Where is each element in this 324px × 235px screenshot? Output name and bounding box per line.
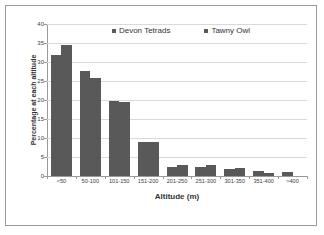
x-axis-tick-label: 351-400 (249, 179, 278, 185)
bar (264, 173, 275, 176)
bar (167, 167, 178, 177)
bar (177, 165, 188, 176)
y-axis-tick-mark (44, 62, 47, 63)
gridline (47, 176, 307, 177)
bar (90, 78, 101, 176)
bar-group (51, 24, 72, 176)
bar (282, 172, 293, 176)
bar (138, 142, 149, 176)
y-axis-title-container: Percentage at each altitude (14, 24, 26, 176)
x-axis-tick-label: 201-250 (163, 179, 192, 185)
x-axis-tick-label: 151-200 (134, 179, 163, 185)
x-axis-tick-mark (249, 176, 250, 179)
y-axis-tick-mark (44, 100, 47, 101)
x-axis-tick-label: 50-100 (76, 179, 105, 185)
x-axis-tick-mark (163, 176, 164, 179)
y-axis-tick-mark (44, 43, 47, 44)
bar (80, 71, 91, 176)
bar (109, 101, 120, 176)
x-axis-title: Altitude (m) (47, 192, 307, 201)
x-axis-tick-mark (278, 176, 279, 179)
y-axis-tick-mark (44, 157, 47, 158)
bar-group (224, 24, 245, 176)
bar-group (138, 24, 159, 176)
bar-group (167, 24, 188, 176)
legend-swatch-icon (204, 29, 208, 33)
x-axis-tick-label: 101-150 (105, 179, 134, 185)
x-axis-tick-mark (105, 176, 106, 179)
bars-layer (47, 24, 307, 176)
legend-entry: Tawny Owl (204, 26, 250, 35)
x-axis-tick-label: 301-350 (220, 179, 249, 185)
bar-group (253, 24, 274, 176)
x-axis-tick-label: 251-300 (191, 179, 220, 185)
legend-label: Tawny Owl (211, 26, 250, 35)
y-axis-tick-mark (44, 24, 47, 25)
x-axis-tick-mark (134, 176, 135, 179)
bar-group (195, 24, 216, 176)
y-axis-tick-mark (44, 119, 47, 120)
bar (148, 142, 159, 176)
x-axis-tick-mark (191, 176, 192, 179)
bar (61, 45, 72, 176)
x-axis-tick-mark (307, 176, 308, 179)
y-axis-tick-mark (44, 81, 47, 82)
y-axis-title: Percentage at each altitude (30, 35, 37, 165)
bar-group (282, 24, 303, 176)
bar-group (109, 24, 130, 176)
x-axis-tick-label: >400 (278, 179, 307, 185)
bar (195, 167, 206, 177)
legend-label: Devon Tetrads (119, 26, 170, 35)
chart-frame: 0510152025303540 Percentage at each alti… (5, 5, 317, 226)
x-axis-tick-label: <50 (47, 179, 76, 185)
bar (224, 169, 235, 176)
bar (119, 102, 130, 176)
bar (253, 171, 264, 176)
bar-group (80, 24, 101, 176)
x-axis-tick-labels: <5050-100101-150151-200201-250251-300301… (47, 179, 307, 191)
bar (206, 165, 217, 176)
x-axis-tick-mark (220, 176, 221, 179)
legend-entry: Devon Tetrads (112, 26, 170, 35)
chart-legend: Devon TetradsTawny Owl (86, 26, 276, 35)
bar (235, 168, 246, 176)
y-axis-tick-mark (44, 138, 47, 139)
x-axis-tick-mark (47, 176, 48, 179)
bar (51, 55, 62, 176)
legend-swatch-icon (112, 29, 116, 33)
x-axis-tick-mark (76, 176, 77, 179)
